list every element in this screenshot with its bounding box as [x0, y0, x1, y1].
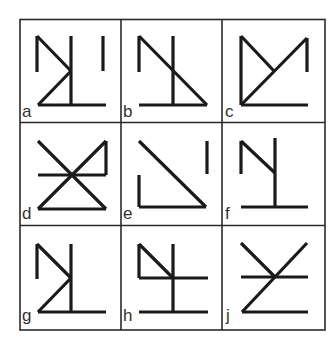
glyph-stroke	[241, 141, 275, 173]
cell-label-e: e	[123, 204, 132, 223]
cell-a: a	[22, 36, 106, 121]
glyph-stroke	[139, 244, 173, 278]
glyph-d	[38, 141, 106, 209]
glyph-stroke	[139, 141, 206, 207]
glyph-stroke	[38, 71, 71, 105]
cell-label-h: h	[123, 306, 132, 325]
cell-h: h	[123, 244, 208, 325]
cell-label-j: j	[225, 306, 230, 325]
cell-b: b	[123, 36, 207, 121]
glyph-b	[139, 36, 207, 105]
glyph-h	[139, 244, 208, 312]
symbol-grid-figure: a b c d e f g h j	[0, 0, 334, 348]
cell-label-a: a	[22, 102, 32, 121]
cell-label-f: f	[225, 204, 230, 223]
cell-d: d	[22, 141, 106, 223]
glyph-g	[37, 244, 106, 312]
cell-e: e	[123, 141, 207, 223]
cell-label-d: d	[22, 204, 31, 223]
glyph-stroke	[38, 278, 71, 312]
cell-c: c	[225, 36, 308, 121]
glyph-c	[241, 36, 308, 105]
cell-f: f	[225, 138, 308, 223]
glyph-j	[241, 243, 308, 312]
cell-label-b: b	[123, 102, 132, 121]
glyph-a	[37, 36, 106, 105]
glyph-e	[139, 141, 207, 207]
glyph-stroke	[37, 244, 71, 278]
glyph-stroke	[241, 36, 274, 71]
glyph-f	[241, 138, 308, 207]
glyph-stroke	[37, 36, 71, 71]
cell-label-c: c	[225, 102, 234, 121]
cell-label-g: g	[22, 306, 31, 325]
cell-j: j	[225, 243, 308, 325]
cell-g: g	[22, 244, 106, 325]
glyph-stroke	[241, 243, 275, 277]
